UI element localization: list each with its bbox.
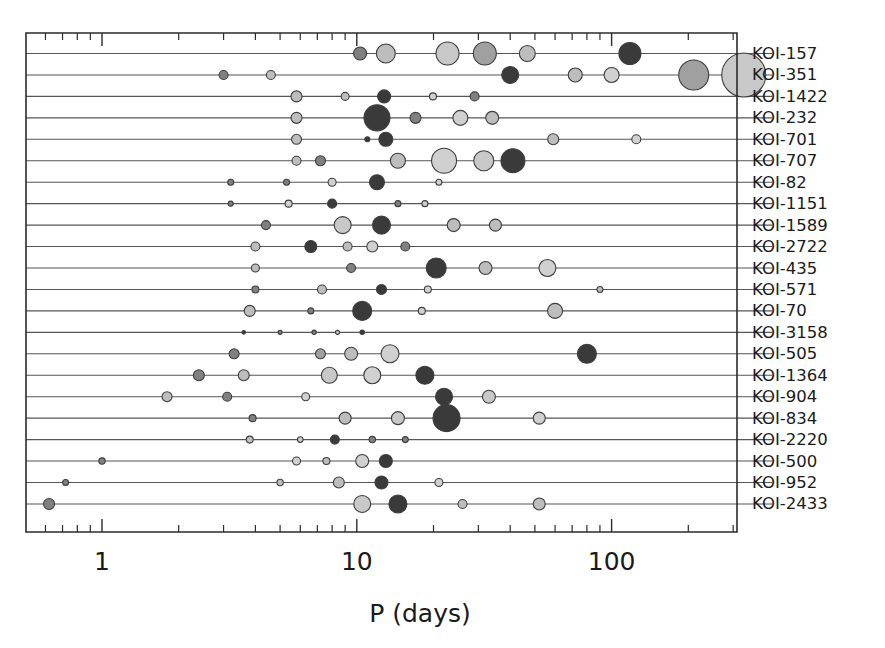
system-label: KOI-500 xyxy=(752,452,817,471)
planet-marker xyxy=(365,137,370,142)
planet-marker xyxy=(632,135,641,144)
planet-marker xyxy=(378,90,391,103)
planet-marker xyxy=(375,476,388,489)
system-label: KOI-904 xyxy=(752,387,817,406)
planet-marker xyxy=(391,412,404,425)
planet-marker xyxy=(228,179,234,185)
planet-marker xyxy=(321,367,337,383)
planet-marker xyxy=(436,179,442,185)
planet-marker xyxy=(334,217,351,234)
planet-marker xyxy=(251,264,259,272)
planet-marker xyxy=(244,305,255,316)
system-label: KOI-351 xyxy=(752,65,817,84)
planet-marker xyxy=(482,390,495,403)
planet-marker xyxy=(345,347,358,360)
planet-marker xyxy=(479,262,492,275)
planet-marker xyxy=(251,242,260,251)
system-label: KOI-571 xyxy=(752,280,817,299)
planet-marker xyxy=(302,393,310,401)
planet-marker xyxy=(285,200,292,207)
planet-marker xyxy=(360,330,364,334)
planet-marker xyxy=(266,70,275,79)
planet-marker xyxy=(291,112,302,123)
planet-marker xyxy=(395,201,401,207)
system-label: KOI-707 xyxy=(752,151,817,170)
planet-marker xyxy=(381,345,399,363)
planet-marker xyxy=(249,415,256,422)
planet-marker xyxy=(238,370,249,381)
planet-marker xyxy=(277,479,283,485)
planet-marker xyxy=(229,349,239,359)
planet-marker xyxy=(284,179,290,185)
planet-marker xyxy=(354,495,371,512)
planet-marker xyxy=(292,156,301,165)
planet-marker xyxy=(447,219,460,232)
planet-marker xyxy=(533,412,545,424)
planet-marker xyxy=(577,344,596,363)
planet-marker xyxy=(99,458,105,464)
planet-marker xyxy=(429,93,436,100)
planet-marker xyxy=(501,149,525,173)
planet-marker xyxy=(228,201,233,206)
planet-marker xyxy=(317,285,326,294)
planet-marker xyxy=(219,70,228,79)
planet-marker xyxy=(470,92,479,101)
planet-marker xyxy=(261,221,270,230)
planet-marker xyxy=(354,47,367,60)
planet-marker xyxy=(193,370,204,381)
planet-marker xyxy=(308,308,314,314)
system-label: KOI-435 xyxy=(752,259,817,278)
system-label: KOI-1422 xyxy=(752,87,828,106)
x-tick-label: 100 xyxy=(588,547,636,576)
system-label: KOI-2220 xyxy=(752,430,828,449)
system-label: KOI-82 xyxy=(752,173,807,192)
planet-marker xyxy=(533,498,545,510)
system-label: KOI-2433 xyxy=(752,494,828,513)
x-tick-label: 10 xyxy=(341,547,373,576)
planet-marker xyxy=(333,477,344,488)
planet-marker xyxy=(422,201,428,207)
planet-marker xyxy=(679,60,709,90)
system-label: KOI-70 xyxy=(752,301,807,320)
planet-marker xyxy=(436,42,459,65)
planet-marker xyxy=(356,455,369,468)
system-label: KOI-952 xyxy=(752,473,817,492)
planet-marker xyxy=(323,458,330,465)
system-label: KOI-505 xyxy=(752,344,817,363)
planet-marker xyxy=(568,68,582,82)
planet-marker xyxy=(347,264,356,273)
planet-marker xyxy=(604,67,619,82)
planet-marker xyxy=(389,495,407,513)
planet-marker xyxy=(402,437,408,443)
planet-marker xyxy=(367,241,378,252)
planet-marker xyxy=(597,286,603,292)
x-tick-label: 1 xyxy=(94,547,110,576)
planet-marker xyxy=(379,132,393,146)
planet-marker xyxy=(474,151,494,171)
planet-marker xyxy=(401,242,410,251)
planet-marker xyxy=(162,392,172,402)
planet-marker xyxy=(410,112,421,123)
planet-marker xyxy=(223,392,232,401)
planet-marker xyxy=(372,216,390,234)
planet-marker xyxy=(390,153,405,168)
system-label: KOI-157 xyxy=(752,44,817,63)
planet-marker xyxy=(436,388,453,405)
system-label: KOI-1589 xyxy=(752,216,828,235)
planet-marker xyxy=(328,199,337,208)
system-label: KOI-1364 xyxy=(752,366,828,385)
planet-marker xyxy=(376,284,386,294)
planet-marker xyxy=(278,330,282,334)
planet-marker xyxy=(473,42,496,65)
planet-marker xyxy=(312,330,316,334)
planet-marker xyxy=(369,175,384,190)
planet-marker xyxy=(336,330,340,334)
planet-marker xyxy=(416,366,434,384)
planet-marker xyxy=(315,349,325,359)
system-label: KOI-3158 xyxy=(752,323,828,342)
planet-marker xyxy=(369,436,375,442)
planet-marker xyxy=(63,480,69,486)
planet-marker xyxy=(539,260,556,277)
system-label: KOI-2722 xyxy=(752,237,828,256)
planet-marker xyxy=(341,92,349,100)
